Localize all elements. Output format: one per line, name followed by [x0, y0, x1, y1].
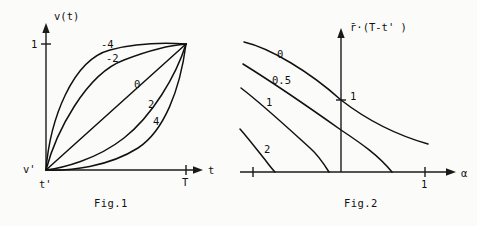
fig1-x-tick-label-T: T: [182, 176, 189, 188]
fig1-y-tick-label-1: 1: [31, 38, 37, 50]
fig1-caption: Fig.1: [94, 197, 128, 209]
fig1-x-axis-label: t: [208, 164, 214, 176]
fig2-x-axis-label: α: [461, 167, 468, 179]
fig1-curve-label-0: 0: [134, 78, 140, 90]
fig2-x-tick-label-1: 1: [421, 178, 427, 190]
fig2-curve-0: [244, 42, 428, 144]
fig2-caption: Fig.2: [344, 197, 378, 209]
figure-1: v(t) t 1 T v' t' -4 -2 0 2 4 Fig.1: [23, 10, 214, 209]
fig2-curve-label-0: 0: [277, 48, 283, 60]
fig2-curve-label-0p5: 0.5: [272, 74, 291, 86]
fig2-curve-label-2: 2: [264, 143, 270, 155]
fig2-y-tick-label-1: 1: [350, 90, 356, 102]
fig2-curve-1: [241, 88, 329, 172]
fig1-origin-label-v-prime: v': [23, 163, 36, 175]
fig1-y-axis-label: v(t): [54, 10, 79, 22]
figure-2: r̄·(T-t' ) α 1 1 0 0.5 1 2 Fig.2: [240, 21, 468, 209]
fig1-origin-label-t-prime: t': [39, 178, 52, 190]
fig2-curve-label-1: 1: [266, 96, 272, 108]
fig1-curve-label--2: -2: [106, 52, 119, 64]
figures-svg: v(t) t 1 T v' t' -4 -2 0 2 4 Fig.1: [0, 0, 477, 226]
fig1-curve-label--4: -4: [101, 38, 114, 50]
fig2-y-axis-label: r̄·(T-t' ): [350, 21, 407, 33]
fig1-curve-label-4: 4: [153, 115, 159, 127]
fig1-curve-label-2: 2: [148, 98, 154, 110]
figure-sheet: v(t) t 1 T v' t' -4 -2 0 2 4 Fig.1: [0, 0, 477, 226]
